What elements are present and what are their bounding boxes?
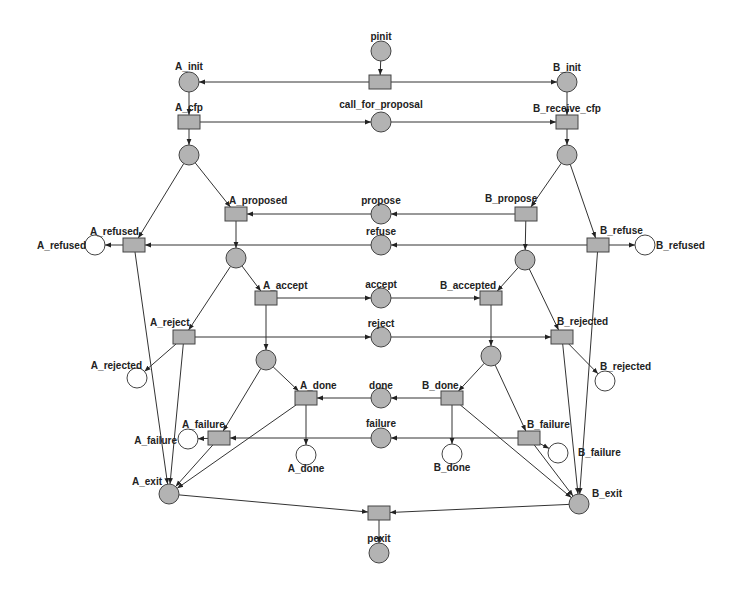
- transition-A_refused[interactable]: [123, 238, 145, 252]
- transition-label-B_receive_cfp: B_receive_cfp: [533, 103, 601, 114]
- arc-pinit-to-init: [380, 61, 381, 75]
- place-failure[interactable]: [371, 428, 391, 448]
- place-label-A_done_out: A_done: [288, 463, 325, 474]
- place-A_refused_out[interactable]: [85, 235, 105, 255]
- place-A_p1[interactable]: [179, 145, 199, 165]
- arc-B_rejected-to-B_rejected_out: [569, 344, 598, 374]
- place-A_failure_out[interactable]: [178, 429, 198, 449]
- place-label-B_init: B_init: [553, 62, 581, 73]
- place-accept[interactable]: [371, 288, 391, 308]
- transition-A_failure[interactable]: [208, 431, 230, 445]
- place-label-reject: reject: [368, 318, 395, 329]
- transition-B_refuse[interactable]: [587, 238, 609, 252]
- arc-B_p3-to-B_failure: [495, 365, 526, 431]
- place-label-A_refused_out: A_refused: [37, 240, 86, 251]
- place-B_done_out[interactable]: [442, 444, 462, 464]
- arc-A_p3-to-A_done: [273, 367, 298, 391]
- place-A_init[interactable]: [179, 72, 199, 92]
- place-propose[interactable]: [371, 204, 391, 224]
- place-B_p3[interactable]: [481, 346, 501, 366]
- place-refuse[interactable]: [371, 235, 391, 255]
- transition-exit[interactable]: [368, 506, 390, 520]
- transition-B_receive_cfp[interactable]: [556, 115, 578, 129]
- place-A_done_out[interactable]: [296, 445, 316, 465]
- place-label-done: done: [369, 380, 393, 391]
- place-B_p2[interactable]: [515, 250, 535, 270]
- place-label-B_exit: B_exit: [592, 488, 623, 499]
- transition-label-A_cfp: A_cfp: [175, 102, 203, 113]
- place-A_p2[interactable]: [226, 248, 246, 268]
- transition-A_reject[interactable]: [173, 330, 195, 344]
- transition-A_done[interactable]: [295, 391, 317, 405]
- transition-label-A_proposed: A_proposed: [229, 195, 287, 206]
- place-B_failure_out[interactable]: [548, 443, 568, 463]
- arc-A_p3-to-A_failure: [223, 369, 261, 431]
- place-label-B_rejected_out: B_rejected: [600, 361, 651, 372]
- transition-A_accept[interactable]: [255, 291, 277, 305]
- place-call_for_proposal[interactable]: [371, 112, 391, 132]
- transition-B_done[interactable]: [441, 391, 463, 405]
- arcs-layer: [105, 61, 635, 543]
- transition-label-A_refused: A_refused: [90, 226, 139, 237]
- place-B_rejected_out[interactable]: [595, 371, 615, 391]
- place-pexit[interactable]: [369, 543, 389, 563]
- transition-B_failure[interactable]: [518, 431, 540, 445]
- place-label-accept: accept: [365, 279, 397, 290]
- place-B_exit[interactable]: [569, 494, 589, 514]
- arc-B_p1-to-B_refuse: [570, 165, 595, 239]
- arc-A_failure-to-A_exit: [176, 445, 213, 487]
- place-B_init[interactable]: [557, 72, 577, 92]
- place-label-propose: propose: [361, 195, 401, 206]
- place-label-A_init: A_init: [175, 61, 203, 72]
- transition-A_proposed[interactable]: [225, 207, 247, 221]
- arc-B_failure-to-B_failure_out: [540, 444, 549, 449]
- arc-A_reject-to-A_exit: [170, 344, 183, 484]
- place-label-A_exit: A_exit: [132, 476, 163, 487]
- place-A_exit[interactable]: [159, 484, 179, 504]
- transition-A_cfp[interactable]: [178, 115, 200, 129]
- arc-B_p2-to-B_accepted: [497, 268, 518, 292]
- transition-label-A_failure: A_failure: [182, 419, 225, 430]
- place-done[interactable]: [371, 388, 391, 408]
- nodes-layer: [85, 41, 655, 563]
- place-A_rejected_out[interactable]: [127, 368, 147, 388]
- labels-layer: pinitA_initB_initcall_for_proposalpropos…: [37, 31, 705, 544]
- transition-label-B_propose: B_propose: [485, 193, 538, 204]
- place-reject[interactable]: [371, 327, 391, 347]
- place-A_p3[interactable]: [256, 350, 276, 370]
- arc-A_p2-to-A_accept: [242, 266, 261, 291]
- place-label-pinit: pinit: [370, 31, 392, 42]
- arc-B_exit-to-exit: [390, 504, 569, 512]
- arc-A_p2-to-A_reject: [189, 266, 231, 330]
- place-label-refuse: refuse: [366, 226, 396, 237]
- place-B_p1[interactable]: [557, 145, 577, 165]
- place-label-B_failure_out: B_failure: [578, 447, 621, 458]
- transition-label-B_accepted: B_accepted: [440, 280, 496, 291]
- place-label-A_rejected_out: A_rejected: [91, 360, 142, 371]
- transition-label-A_done: A_done: [300, 380, 337, 391]
- place-label-A_failure_out: A_failure: [134, 435, 177, 446]
- place-pinit[interactable]: [371, 41, 391, 61]
- arc-A_p1-to-A_refused: [138, 164, 184, 239]
- arc-A_reject-to-A_rejected_out: [145, 344, 177, 371]
- place-B_refused_out[interactable]: [635, 235, 655, 255]
- transition-B_rejected[interactable]: [551, 330, 573, 344]
- place-label-B_refused_out: B_refused: [656, 240, 705, 251]
- transition-label-A_reject: A_reject: [150, 317, 190, 328]
- transition-B_propose[interactable]: [515, 207, 537, 221]
- arc-B_p2-to-B_rejected: [529, 269, 558, 330]
- transition-B_accepted[interactable]: [480, 291, 502, 305]
- arc-B_propose-to-B_p2: [525, 221, 526, 250]
- transition-label-A_accept: A_accept: [263, 280, 308, 291]
- transition-label-B_failure: B_failure: [527, 419, 570, 430]
- arc-A_p1-to-A_proposed: [195, 163, 230, 207]
- petri-net-diagram: pinitA_initB_initcall_for_proposalpropos…: [0, 0, 741, 595]
- transition-label-B_rejected: B_rejected: [557, 316, 608, 327]
- transition-label-B_done: B_done: [422, 380, 459, 391]
- arc-B_p3-to-B_done: [459, 363, 485, 391]
- transition-label-B_refuse: B_refuse: [600, 225, 643, 236]
- place-label-failure: failure: [366, 418, 396, 429]
- arc-A_exit-to-exit: [179, 495, 368, 512]
- transition-init[interactable]: [369, 75, 391, 89]
- place-label-B_done_out: B_done: [434, 462, 471, 473]
